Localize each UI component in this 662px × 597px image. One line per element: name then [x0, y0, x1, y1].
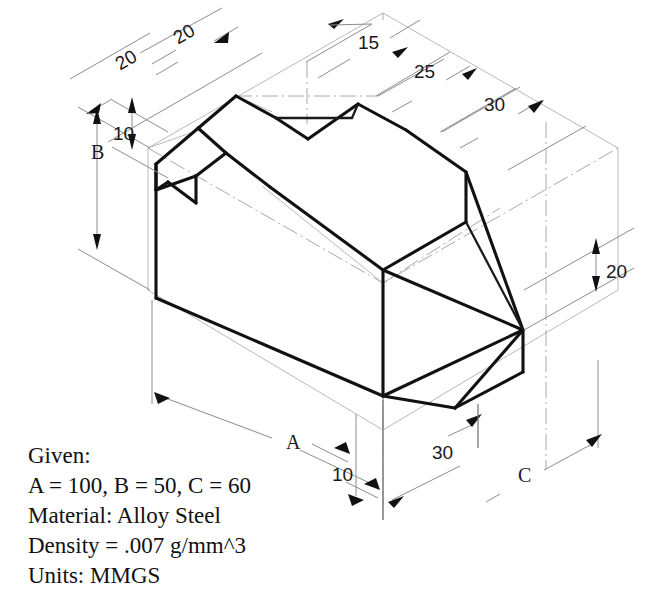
notes-line-density: Density = .007 g/mm^3 [28, 531, 251, 561]
part-outline [156, 96, 523, 408]
dim-label-bottom-C: C [518, 465, 531, 485]
dim-label-left-10: 10 [113, 124, 134, 143]
notes-line-given: Given: [28, 441, 251, 471]
dim-top-20-inner [140, 8, 262, 97]
dim-top-30 [442, 87, 586, 170]
notes-line-units: Units: MMGS [28, 561, 251, 591]
notes-line-material: Material: Alloy Steel [28, 501, 251, 531]
dim-label-bottom-10: 10 [332, 465, 353, 484]
drawing-page: 20 20 15 25 30 B 10 20 A 10 30 C Given: … [0, 0, 662, 597]
dim-label-bottom-30: 30 [432, 443, 453, 462]
dim-bottom-10 [312, 400, 383, 520]
dim-top-25 [376, 47, 516, 132]
part-left-step-notch [156, 128, 226, 203]
part-interior-facets [226, 153, 523, 408]
dim-label-top-30: 30 [484, 95, 505, 114]
centerline-top-notch [236, 62, 378, 124]
dim-label-top-25: 25 [414, 62, 435, 81]
dim-label-right-20: 20 [606, 262, 627, 281]
dim-label-left-B: B [91, 142, 104, 162]
dim-label-top-15: 15 [358, 33, 379, 52]
notes-line-parameters: A = 100, B = 50, C = 60 [28, 471, 251, 501]
dim-bottom-C [478, 360, 602, 502]
given-notes-block: Given: A = 100, B = 50, C = 60 Material:… [28, 441, 251, 590]
dim-label-bottom-A: A [286, 432, 300, 452]
dim-top-15 [306, 19, 444, 96]
